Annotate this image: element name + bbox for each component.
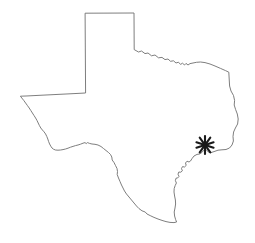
texas-map-svg xyxy=(0,0,255,243)
map-canvas xyxy=(0,0,255,243)
